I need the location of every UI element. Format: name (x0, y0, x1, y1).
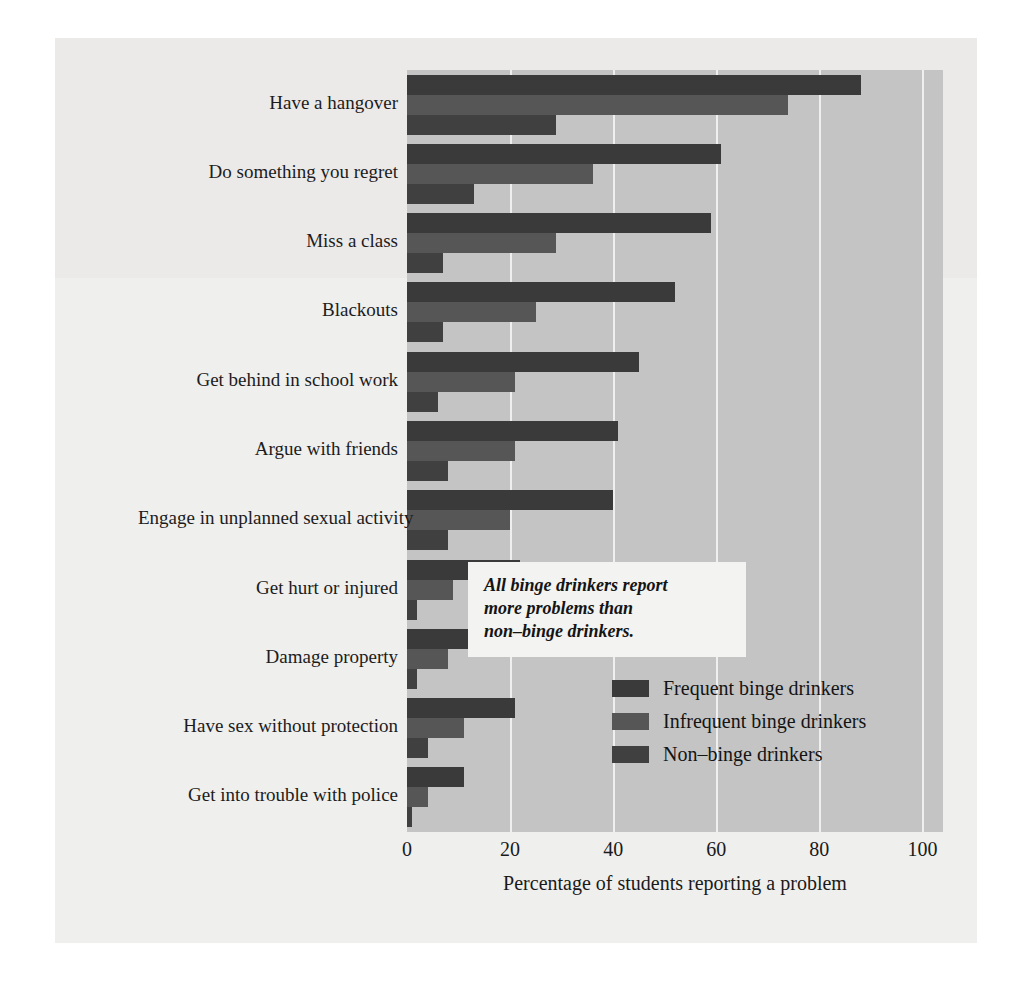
bar (407, 530, 448, 550)
bar (407, 372, 515, 392)
legend-item: Infrequent binge drinkers (612, 705, 866, 738)
x-axis-title: Percentage of students reporting a probl… (407, 872, 943, 895)
bar (407, 253, 443, 273)
legend-swatch-icon (612, 680, 649, 697)
bar (407, 461, 448, 481)
legend-label: Non–binge drinkers (663, 743, 822, 766)
x-tick-label: 20 (500, 838, 520, 861)
bar (407, 115, 556, 135)
bar (407, 352, 639, 372)
bar (407, 580, 453, 600)
category-label: Blackouts (138, 299, 398, 321)
annotation-line: All binge drinkers report (484, 574, 732, 597)
legend-swatch-icon (612, 713, 649, 730)
bar (407, 738, 428, 758)
bar (407, 322, 443, 342)
bar (407, 421, 618, 441)
x-tick-label: 0 (402, 838, 412, 861)
category-label: Get behind in school work (138, 369, 398, 391)
bar (407, 767, 464, 787)
category-label: Miss a class (138, 230, 398, 252)
chart-legend: Frequent binge drinkersInfrequent binge … (612, 672, 866, 771)
category-label: Get into trouble with police (138, 784, 398, 806)
legend-item: Frequent binge drinkers (612, 672, 866, 705)
bar (407, 669, 417, 689)
bar (407, 184, 474, 204)
bar (407, 95, 788, 115)
category-label: Do something you regret (138, 161, 398, 183)
category-label: Engage in unplanned sexual activity (138, 507, 398, 529)
bar (407, 233, 556, 253)
x-tick-label: 40 (603, 838, 623, 861)
bar (407, 718, 464, 738)
bar (407, 649, 448, 669)
bar (407, 164, 593, 184)
bar (407, 807, 412, 827)
bar (407, 490, 613, 510)
bar (407, 144, 721, 164)
legend-swatch-icon (612, 746, 649, 763)
x-tick-label: 60 (706, 838, 726, 861)
bar (407, 213, 711, 233)
bar (407, 510, 510, 530)
legend-label: Frequent binge drinkers (663, 677, 854, 700)
legend-label: Infrequent binge drinkers (663, 710, 866, 733)
gridline-100 (922, 70, 924, 832)
bar (407, 392, 438, 412)
category-label: Get hurt or injured (138, 577, 398, 599)
bar (407, 787, 428, 807)
bar (407, 75, 861, 95)
chart-annotation-callout: All binge drinkers reportmore problems t… (468, 562, 746, 657)
bar (407, 282, 675, 302)
category-label: Have sex without protection (138, 715, 398, 737)
bar (407, 441, 515, 461)
bar (407, 698, 515, 718)
category-label: Have a hangover (138, 92, 398, 114)
category-label: Damage property (138, 646, 398, 668)
chart-figure: Have a hangoverDo something you regretMi… (0, 0, 1032, 982)
x-tick-label: 80 (809, 838, 829, 861)
category-label: Argue with friends (138, 438, 398, 460)
annotation-line: non–binge drinkers. (484, 620, 732, 643)
bar (407, 302, 536, 322)
y-axis-category-labels: Have a hangoverDo something you regretMi… (130, 70, 398, 832)
x-tick-label: 100 (907, 838, 937, 861)
legend-item: Non–binge drinkers (612, 738, 866, 771)
bar (407, 600, 417, 620)
annotation-line: more problems than (484, 597, 732, 620)
